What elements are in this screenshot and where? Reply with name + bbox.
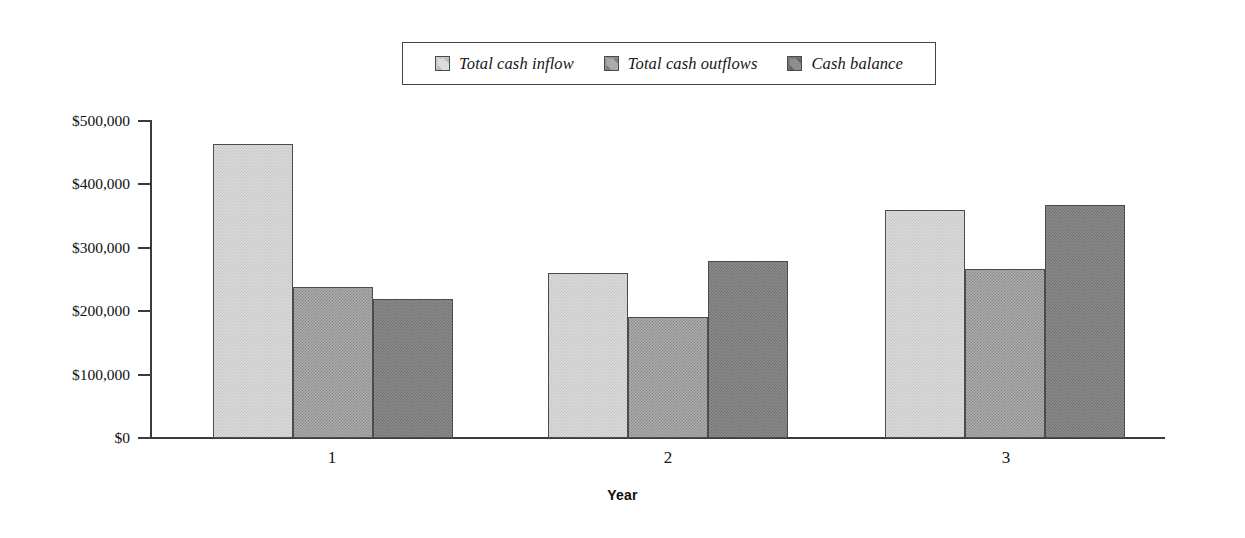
bar-total-cash-outflows-year-3	[965, 269, 1045, 438]
bar-total-cash-inflow-year-2	[548, 273, 628, 438]
y-axis-tick-400000	[138, 183, 151, 185]
bar-cash-balance-year-2	[708, 261, 788, 438]
y-axis-tick-0	[138, 437, 151, 439]
y-axis-tick-300000	[138, 247, 151, 249]
y-axis-line	[150, 120, 152, 439]
y-axis-label-500000: $500,000	[0, 112, 130, 130]
y-axis-tick-200000	[138, 310, 151, 312]
y-axis-label-400000: $400,000	[0, 175, 130, 193]
x-axis-title: Year	[0, 487, 1245, 503]
y-axis-label-200000: $200,000	[0, 302, 130, 320]
bar-chart-figure: Total cash inflow Total cash outflows Ca…	[0, 0, 1245, 538]
y-axis-label-0: $0	[0, 429, 130, 447]
bar-total-cash-inflow-year-3	[885, 210, 965, 438]
x-axis-label-3: 3	[976, 448, 1036, 468]
y-axis-label-100000: $100,000	[0, 366, 130, 384]
x-axis-label-2: 2	[638, 448, 698, 468]
plot-area: $500,000 $400,000 $300,000 $200,000 $100…	[0, 0, 1245, 538]
y-axis-tick-500000	[138, 120, 151, 122]
bar-total-cash-outflows-year-1	[293, 287, 373, 438]
x-axis-label-1: 1	[302, 448, 362, 468]
bar-total-cash-outflows-year-2	[628, 317, 708, 438]
bar-cash-balance-year-3	[1045, 205, 1125, 438]
bar-total-cash-inflow-year-1	[213, 144, 293, 438]
y-axis-tick-100000	[138, 374, 151, 376]
bar-cash-balance-year-1	[373, 299, 453, 438]
y-axis-label-300000: $300,000	[0, 239, 130, 257]
